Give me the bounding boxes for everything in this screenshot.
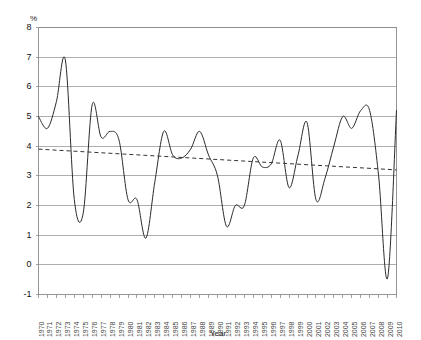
x-tick-label: 1996 [270, 321, 277, 337]
x-tick-label: 1997 [279, 321, 286, 337]
y-tick-label: 1 [26, 230, 31, 240]
x-tickmarks [39, 295, 397, 298]
x-tick-label: 1975 [82, 321, 89, 337]
y-tick-label: 8 [26, 22, 31, 32]
x-tick-label: 1998 [288, 321, 295, 337]
y-tick-label: 0 [26, 259, 31, 269]
data-series-line [39, 57, 397, 279]
y-tick-label: 7 [26, 52, 31, 62]
x-tick-label: 1979 [118, 321, 125, 337]
x-tick-label: 2004 [342, 321, 349, 337]
x-tick-label: 1982 [145, 321, 152, 337]
x-tick-label: 1971 [46, 321, 53, 337]
x-tick-label: 2006 [360, 321, 367, 337]
y-tick-label: 5 [26, 111, 31, 121]
x-tick-label: 1984 [163, 321, 170, 337]
x-tick-label: 1992 [234, 321, 241, 337]
x-tick-label: 1983 [154, 321, 161, 337]
y-axis-unit-label: % [30, 14, 37, 23]
x-tick-label: 1980 [127, 321, 134, 337]
x-tick-label: 1981 [136, 321, 143, 337]
y-tick-label: 6 [26, 81, 31, 91]
y-tick-label: 3 [26, 170, 31, 180]
x-tick-label: 1977 [100, 321, 107, 337]
y-tick-labels: 876543210-1 [23, 22, 38, 299]
x-tick-label: 1991 [225, 321, 232, 337]
y-tick-label: 4 [26, 141, 31, 151]
x-tick-label: 1985 [172, 321, 179, 337]
x-tick-label: 2005 [351, 321, 358, 337]
x-tick-label: 1976 [91, 321, 98, 337]
x-tick-label: 1988 [199, 321, 206, 337]
x-axis-title: Year [210, 329, 227, 338]
x-tick-label: 1970 [38, 321, 45, 337]
x-tick-label: 2009 [387, 321, 394, 337]
x-tick-label: 1986 [181, 321, 188, 337]
x-tick-label: 1972 [55, 321, 62, 337]
y-tick-label: -1 [23, 289, 31, 299]
x-tick-label: 1973 [64, 321, 71, 337]
x-tick-label: 2003 [333, 321, 340, 337]
x-tick-label: 2000 [306, 321, 313, 337]
x-tick-label: 2002 [324, 321, 331, 337]
x-tick-label: 1999 [297, 321, 304, 337]
x-tick-label: 2001 [315, 321, 322, 337]
chart-canvas: 876543210-1 1970197119721973197419751976… [0, 0, 421, 340]
x-tick-label: 2007 [369, 321, 376, 337]
x-tick-label: 1974 [73, 321, 80, 337]
trend-line [39, 149, 397, 170]
x-tick-label: 1995 [261, 321, 268, 337]
x-tick-label: 2008 [378, 321, 385, 337]
y-tick-label: 2 [26, 200, 31, 210]
x-tick-label: 1987 [190, 321, 197, 337]
plot-axes [39, 28, 397, 295]
x-tick-label: 2010 [396, 321, 403, 337]
x-tick-label: 1978 [109, 321, 116, 337]
line-chart: 876543210-1 1970197119721973197419751976… [0, 0, 421, 340]
x-tick-label: 1994 [252, 321, 259, 337]
gridlines [39, 28, 397, 265]
x-tick-label: 1993 [243, 321, 250, 337]
